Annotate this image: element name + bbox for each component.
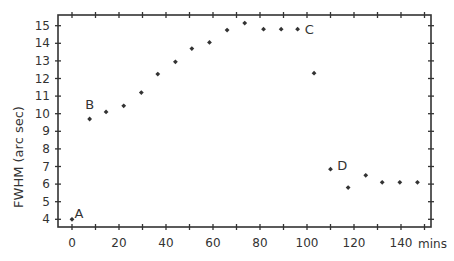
data-point — [139, 90, 144, 95]
annotation-label-c: C — [305, 22, 314, 37]
y-tick-label: 9 — [42, 124, 50, 138]
y-tick-label: 10 — [35, 107, 50, 121]
data-point — [207, 40, 212, 45]
x-axis-label: mins — [418, 237, 447, 251]
y-tick-label: 13 — [35, 54, 50, 68]
data-point — [104, 110, 109, 115]
x-tick-label: 20 — [111, 236, 126, 250]
x-tick-label: 100 — [296, 236, 319, 250]
data-point — [380, 180, 385, 185]
y-tick-label: 7 — [42, 160, 50, 174]
y-tick-label: 8 — [42, 142, 50, 156]
point-annotations: ABCD — [75, 22, 348, 221]
x-tick-label: 60 — [205, 236, 220, 250]
y-tick-label: 12 — [35, 72, 50, 86]
y-tick-label: 11 — [35, 89, 50, 103]
y-tick-label: 14 — [35, 36, 50, 50]
plot-frame — [58, 15, 431, 227]
data-point — [363, 173, 368, 178]
data-point — [279, 27, 284, 32]
x-tick-label: 0 — [68, 236, 76, 250]
data-point — [415, 180, 420, 185]
fwhm-scatter-chart: 456789101112131415 020406080100120140 AB… — [0, 0, 454, 261]
data-point — [261, 27, 266, 32]
y-axis-label: FWHM (arc sec) — [11, 106, 26, 208]
y-tick-label: 4 — [42, 212, 50, 226]
plot-border — [58, 15, 431, 227]
data-point — [295, 27, 300, 32]
data-point — [397, 180, 402, 185]
x-axis-ticks: 020406080100120140 — [68, 12, 424, 250]
data-point — [189, 46, 194, 51]
x-tick-label: 40 — [158, 236, 173, 250]
data-point — [87, 117, 92, 122]
annotation-label-b: B — [85, 97, 94, 112]
data-point — [155, 72, 160, 77]
data-point — [328, 167, 333, 172]
data-point — [346, 185, 351, 190]
annotation-label-d: D — [337, 158, 347, 173]
annotation-label-a: A — [75, 206, 84, 221]
data-point — [173, 59, 178, 64]
y-tick-label: 15 — [35, 19, 50, 33]
x-tick-label: 140 — [390, 236, 413, 250]
y-axis-ticks: 456789101112131415 — [35, 19, 434, 227]
data-point — [121, 103, 126, 108]
y-tick-label: 5 — [42, 195, 50, 209]
y-tick-label: 6 — [42, 177, 50, 191]
x-tick-label: 120 — [343, 236, 366, 250]
data-point — [242, 21, 247, 26]
data-points — [70, 21, 420, 222]
x-tick-label: 80 — [252, 236, 267, 250]
data-point — [312, 71, 317, 76]
data-point — [225, 28, 230, 33]
